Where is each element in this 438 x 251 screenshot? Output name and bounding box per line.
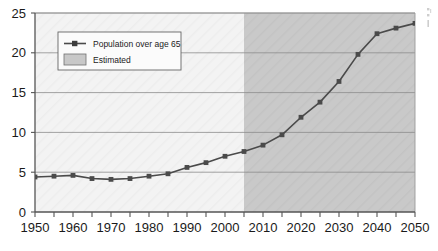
legend-marker-square-icon [72,41,77,46]
data-point-marker [356,52,361,57]
x-tick-label: 2020 [287,220,316,235]
x-tick-label: 2040 [363,220,392,235]
data-point-marker [128,176,133,181]
chart-container: 0510152025 19501960197019801990200020102… [0,0,438,251]
data-point-marker [166,171,171,176]
data-point-marker [52,174,57,179]
chart-legend[interactable]: Population over age 65 Estimated [58,32,181,70]
data-point-marker [318,100,323,105]
x-axis-ticks [35,212,415,217]
data-point-marker [71,173,76,178]
x-tick-label: 2010 [249,220,278,235]
y-tick-label: 5 [19,165,26,180]
estimated-region-band [244,13,415,212]
data-point-marker [147,174,152,179]
x-tick-label: 1950 [21,220,50,235]
x-tick-label: 1990 [173,220,202,235]
y-tick-label: 25 [12,6,26,21]
x-tick-label: 1980 [135,220,164,235]
data-point-marker [375,31,380,36]
data-point-marker [204,160,209,165]
y-tick-label: 10 [12,125,26,140]
x-tick-label: 2000 [211,220,240,235]
data-point-marker [109,177,114,182]
legend-swatch-estimated [64,54,86,65]
population-over-65-line-chart: 0510152025 19501960197019801990200020102… [0,0,438,251]
data-point-marker [337,79,342,84]
x-tick-label: 1970 [97,220,126,235]
data-point-marker [394,26,399,31]
data-point-marker [299,115,304,120]
y-tick-label: 20 [12,45,26,60]
data-point-marker [261,143,266,148]
data-point-marker [185,165,190,170]
legend-label-estimated: Estimated [93,55,131,65]
data-point-marker [242,149,247,154]
x-tick-label: 2050 [401,220,430,235]
y-tick-label: 15 [12,85,26,100]
y-tick-label: 0 [19,205,26,220]
legend-label-population: Population over age 65 [93,39,181,49]
data-point-marker [280,132,285,137]
data-point-marker [90,176,95,181]
data-point-marker [223,154,228,159]
x-tick-label: 1960 [59,220,88,235]
legend-entry-estimated[interactable]: Estimated [64,54,131,65]
x-tick-label: 2030 [325,220,354,235]
x-axis-tick-labels: 1950196019701980199020002010202020302040… [21,220,430,235]
